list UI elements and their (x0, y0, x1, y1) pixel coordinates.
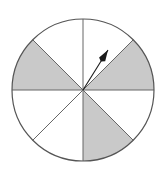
spinner-figure (0, 0, 166, 178)
spinner-diagram (0, 0, 166, 178)
